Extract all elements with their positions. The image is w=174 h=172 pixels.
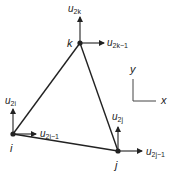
dof-label-u2k: u2k (68, 3, 81, 15)
node-label-k: k (67, 37, 73, 49)
diagram-svg: k u2k u2k−1 i u2i u2i−1 j (0, 0, 174, 172)
triangle-element (13, 43, 118, 151)
y-axis-label: y (129, 63, 137, 75)
dof-label-u2j: u2j (112, 111, 123, 124)
coordinate-axes: y x (129, 63, 167, 106)
x-axis-label: x (160, 94, 167, 106)
edge-k-i (13, 43, 80, 134)
node-j: j u2j u2j−1 (112, 111, 165, 171)
node-dot-k (77, 40, 82, 45)
element-diagram: k u2k u2k−1 i u2i u2i−1 j (0, 0, 174, 172)
node-i: i u2i u2i−1 (5, 95, 59, 154)
edge-i-j (13, 134, 118, 151)
node-k: k u2k u2k−1 (67, 3, 128, 49)
node-dot-j (115, 148, 120, 153)
node-dot-i (10, 131, 15, 136)
node-label-i: i (10, 142, 13, 154)
dof-label-u2k-1: u2k−1 (107, 37, 128, 49)
dof-label-u2j-1: u2j−1 (146, 146, 165, 159)
dof-label-u2i: u2i (5, 95, 16, 107)
node-label-j: j (113, 159, 118, 171)
edge-j-k (80, 43, 118, 151)
dof-label-u2i-1: u2i−1 (40, 128, 59, 140)
